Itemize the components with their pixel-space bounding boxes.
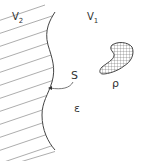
region-diagram: V2 V1 S ρ ε — [0, 0, 141, 161]
charge-distribution-blob — [100, 43, 133, 74]
v2-hatching — [0, 5, 60, 161]
label-rho: ρ — [112, 77, 119, 90]
boundary-surface-curve — [42, 12, 55, 150]
label-epsilon: ε — [74, 102, 80, 115]
label-v1: V1 — [87, 11, 98, 25]
label-surface-s: S — [71, 69, 78, 82]
surface-pointer-arrow — [50, 82, 73, 89]
